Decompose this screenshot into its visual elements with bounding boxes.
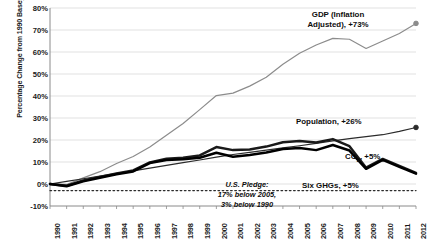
x-tick-2005: 2005 — [303, 223, 312, 239]
x-tick-1995: 1995 — [136, 223, 145, 239]
series-endpoint-population — [414, 125, 419, 130]
x-tick-2010: 2010 — [386, 223, 395, 239]
x-tick-1994: 1994 — [120, 223, 129, 239]
chart-svg — [50, 8, 416, 206]
x-tick-2000: 2000 — [220, 223, 229, 239]
plot-area — [50, 8, 416, 206]
y-tick-60: 60% — [8, 48, 48, 57]
series-label-six-ghgs: Six GHGs, +5% — [302, 181, 359, 191]
series-label-gdp-line1: GDP (Inflation — [272, 10, 404, 20]
x-tick-1997: 1997 — [170, 223, 179, 239]
co2-value: , +5% — [360, 152, 380, 161]
x-tick-1996: 1996 — [153, 223, 162, 239]
y-axis-tick-labels: -10%0%10%20%30%40%50%60%70%80% — [4, 0, 48, 242]
series-endpoint-gdp-inflation-adjusted — [414, 21, 419, 26]
y-tick-30: 30% — [8, 114, 48, 123]
series-label-population: Population, +26% — [296, 117, 362, 127]
x-tick-2006: 2006 — [319, 223, 328, 239]
y-tick-10: 10% — [8, 158, 48, 167]
x-tick-2011: 2011 — [403, 224, 412, 239]
pledge-line1: U.S. Pledge: — [186, 180, 308, 190]
y-tick-20: 20% — [8, 136, 48, 145]
y-tick-70: 70% — [8, 26, 48, 35]
x-tick-1998: 1998 — [186, 223, 195, 239]
x-tick-1999: 1999 — [203, 223, 212, 239]
x-tick-2009: 2009 — [369, 223, 378, 239]
x-tick-2008: 2008 — [353, 223, 362, 239]
series-label-gdp-line2: Adjusted), +73% — [272, 20, 404, 30]
x-tick-2007: 2007 — [336, 223, 345, 239]
x-axis-tick-labels: 1990199119921993199419951996199719981999… — [50, 209, 416, 242]
x-tick-2001: 2001 — [236, 223, 245, 239]
x-tick-1991: 1991 — [70, 223, 79, 239]
x-tick-2003: 2003 — [269, 223, 278, 239]
y-tick-0: 0% — [8, 180, 48, 189]
series-label-gdp: GDP (Inflation Adjusted), +73% — [272, 10, 404, 30]
series-label-co2: CO2, +5% — [345, 152, 380, 165]
x-tick-1992: 1992 — [86, 223, 95, 239]
y-tick-40: 40% — [8, 92, 48, 101]
pledge-line2: 17% below 2005, — [186, 190, 308, 200]
y-tick-50: 50% — [8, 70, 48, 79]
x-tick-2012: 2012 — [419, 223, 428, 239]
x-tick-2002: 2002 — [253, 223, 262, 239]
pledge-annotation: U.S. Pledge: 17% below 2005, 3% below 19… — [186, 180, 308, 210]
x-tick-1990: 1990 — [53, 223, 62, 239]
y-tick-80: 80% — [8, 4, 48, 13]
pledge-line3: 3% below 1990 — [186, 200, 308, 210]
y-tick--10: -10% — [8, 202, 48, 211]
x-tick-1993: 1993 — [103, 223, 112, 239]
x-tick-2004: 2004 — [286, 223, 295, 239]
